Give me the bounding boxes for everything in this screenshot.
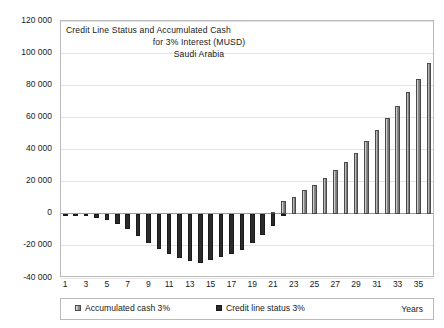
bar-credit-line-status	[84, 214, 89, 217]
chart-title-line-1: Credit Line Status and Accumulated Cash	[62, 24, 332, 36]
bar-credit-line-status	[271, 214, 276, 226]
bar-credit-line-status	[146, 214, 151, 244]
legend-swatch-credit-line-status-icon	[216, 305, 222, 311]
bar-accumulated-cash	[427, 63, 432, 214]
bar-group	[362, 21, 372, 276]
y-axis-tick-label: 120 000	[2, 16, 52, 25]
bar-credit-line-status	[188, 214, 193, 261]
x-axis-tick-label: 17	[220, 280, 242, 289]
bar-credit-line-status	[281, 214, 286, 216]
x-axis-tick-label: 19	[241, 280, 263, 289]
chart-title-line-3: Saudi Arabia	[62, 48, 332, 60]
bar-accumulated-cash	[364, 141, 369, 213]
bar-group	[393, 21, 403, 276]
x-axis-tick-label: 31	[366, 280, 388, 289]
bar-accumulated-cash	[375, 130, 380, 214]
legend-label-credit-line-status: Credit line status 3%	[226, 303, 305, 313]
legend-item-accumulated-cash: Accumulated cash 3%	[75, 303, 170, 313]
bar-credit-line-status	[63, 214, 68, 216]
chart-title: Credit Line Status and Accumulated Cash …	[62, 24, 332, 60]
y-axis-tick-label: -40 000	[2, 273, 52, 282]
legend-label-accumulated-cash: Accumulated cash 3%	[85, 303, 170, 313]
bar-accumulated-cash	[354, 153, 359, 214]
bar-credit-line-status	[208, 214, 213, 261]
x-axis-tick-label: 5	[96, 280, 118, 289]
bar-accumulated-cash	[312, 185, 317, 214]
x-axis-tick-label: 25	[304, 280, 326, 289]
x-axis-tick-label: 11	[158, 280, 180, 289]
x-axis-label: Years	[401, 304, 423, 314]
chart-legend: Accumulated cash 3% Credit line status 3…	[60, 298, 434, 320]
bar-group	[373, 21, 383, 276]
bar-accumulated-cash	[385, 118, 390, 214]
bar-group	[342, 21, 352, 276]
bar-credit-line-status	[177, 214, 182, 258]
y-axis-tick-label: 60 000	[2, 112, 52, 121]
bar-credit-line-status	[94, 214, 99, 218]
bar-credit-line-status	[136, 214, 141, 236]
bar-accumulated-cash	[292, 197, 297, 214]
x-axis-tick-label: 1	[54, 280, 76, 289]
bar-credit-line-status	[250, 214, 255, 244]
legend-swatch-accumulated-cash-icon	[75, 305, 81, 311]
x-axis-tick-label: 35	[407, 280, 429, 289]
bar-group	[331, 21, 341, 276]
bar-credit-line-status	[73, 214, 78, 216]
bar-credit-line-status	[167, 214, 172, 255]
y-axis-tick-label: 20 000	[2, 176, 52, 185]
x-axis-tick-label: 7	[117, 280, 139, 289]
chart-figure: 120 000100 00080 00060 00040 00020 0000-…	[0, 0, 444, 328]
x-axis-tick-label: 3	[75, 280, 97, 289]
y-axis-tick-label: 100 000	[2, 48, 52, 57]
bar-accumulated-cash	[416, 79, 421, 214]
x-axis-tick-label: 29	[345, 280, 367, 289]
bar-accumulated-cash	[333, 170, 338, 213]
bar-credit-line-status	[229, 214, 234, 255]
bar-credit-line-status	[240, 214, 245, 250]
bar-group	[425, 21, 435, 276]
bar-group	[383, 21, 393, 276]
x-axis-tick-label: 9	[137, 280, 159, 289]
x-axis-tick-label: 13	[179, 280, 201, 289]
y-axis-tick-label: 40 000	[2, 144, 52, 153]
chart-title-line-2: for 3% Interest (MUSD)	[62, 36, 332, 48]
y-axis-tick-label: 80 000	[2, 80, 52, 89]
bar-credit-line-status	[198, 214, 203, 263]
bar-accumulated-cash	[395, 106, 400, 214]
bar-accumulated-cash	[323, 178, 328, 213]
bar-accumulated-cash	[271, 212, 276, 214]
bar-credit-line-status	[157, 214, 162, 249]
bar-credit-line-status	[105, 214, 110, 221]
x-axis-tick-label: 27	[324, 280, 346, 289]
bar-group	[404, 21, 414, 276]
bar-group	[414, 21, 424, 276]
y-axis-tick-label: 0	[2, 208, 52, 217]
bar-accumulated-cash	[344, 162, 349, 214]
bar-accumulated-cash	[281, 201, 286, 214]
bar-accumulated-cash	[406, 92, 411, 213]
bar-credit-line-status	[125, 214, 130, 229]
x-axis-tick-label: 15	[200, 280, 222, 289]
x-axis-tick-label: 33	[387, 280, 409, 289]
bar-accumulated-cash	[302, 190, 307, 213]
legend-item-credit-line-status: Credit line status 3%	[216, 303, 305, 313]
bar-credit-line-status	[115, 214, 120, 224]
bar-credit-line-status	[219, 214, 224, 257]
y-axis-tick-label: -20 000	[2, 240, 52, 249]
x-axis-tick-label: 21	[262, 280, 284, 289]
bar-credit-line-status	[260, 214, 265, 236]
x-axis-tick-label: 23	[283, 280, 305, 289]
bar-group	[352, 21, 362, 276]
